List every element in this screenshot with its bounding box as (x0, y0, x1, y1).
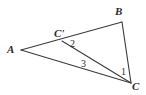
vertex-label-c: C (132, 81, 139, 92)
angle-label-1: 1 (121, 67, 126, 77)
geometry-diagram: A B C C' 1 2 3 (0, 0, 146, 95)
segment-A-to-C (21, 50, 131, 83)
angle-label-3: 3 (81, 59, 86, 69)
vertex-label-c-prime: C' (54, 28, 64, 39)
vertex-label-a: A (7, 44, 14, 55)
angle-label-2: 2 (70, 39, 75, 49)
vertex-label-b: B (115, 6, 122, 17)
